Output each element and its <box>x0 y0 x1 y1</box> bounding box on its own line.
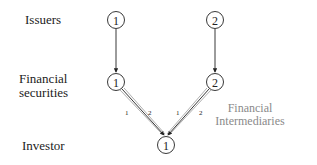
edge-label-s2-2: 2 <box>199 109 203 117</box>
row-label-investor: Investor <box>22 138 65 153</box>
svg-text:1: 1 <box>113 76 119 90</box>
node-issuer-1: 1 <box>108 12 125 29</box>
svg-text:2: 2 <box>212 14 218 28</box>
edge-label-s1-1: 1 <box>125 109 129 117</box>
node-issuer-2: 2 <box>207 12 224 29</box>
node-security-2: 2 <box>207 74 224 91</box>
svg-text:2: 2 <box>212 76 218 90</box>
row-label-issuers: Issuers <box>25 12 61 27</box>
svg-text:1: 1 <box>113 14 119 28</box>
node-security-1: 1 <box>108 74 125 91</box>
intermediaries-label-1: Financial <box>228 101 273 115</box>
edge-security2-investor-path2 <box>168 89 209 135</box>
financial-network-diagram: Issuers Financial securities Investor 1 … <box>0 0 317 165</box>
row-label-securities-1: Financial <box>19 71 68 86</box>
edge-label-s2-1: 1 <box>176 109 180 117</box>
intermediaries-label-2: Intermediaries <box>215 114 285 128</box>
node-investor-1: 1 <box>158 137 175 154</box>
edge-label-s1-2: 2 <box>148 109 152 117</box>
svg-text:1: 1 <box>163 139 169 153</box>
row-label-securities-2: securities <box>19 85 68 100</box>
edge-security1-investor-path3 <box>124 88 165 134</box>
